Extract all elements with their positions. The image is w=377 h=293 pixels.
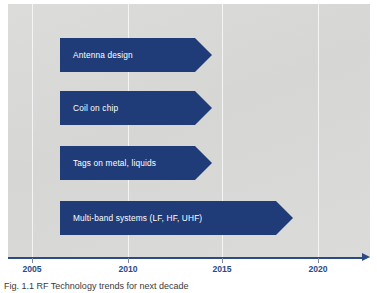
tick-label-2020: 2020 bbox=[308, 264, 327, 274]
tick-mark-2010 bbox=[128, 258, 129, 263]
tick-label-2015: 2015 bbox=[212, 264, 231, 274]
tick-label-2005: 2005 bbox=[22, 264, 41, 274]
tick-mark-2020 bbox=[318, 258, 319, 263]
tick-mark-2015 bbox=[222, 258, 223, 263]
tick-label-2010: 2010 bbox=[118, 264, 137, 274]
bar-coil-on-chip[interactable]: Coil on chip bbox=[60, 91, 212, 125]
bar-label: Multi-band systems (LF, HF, UHF) bbox=[73, 213, 202, 223]
bar-multi-band-systems[interactable]: Multi-band systems (LF, HF, UHF) bbox=[60, 201, 293, 235]
figure-container: Antenna design Coil on chip Tags on meta… bbox=[0, 0, 377, 293]
gridline-2005 bbox=[32, 4, 33, 258]
bar-antenna-design[interactable]: Antenna design bbox=[60, 38, 212, 72]
figure-caption: Fig. 1.1 RF Technology trends for next d… bbox=[4, 281, 188, 291]
x-axis-line bbox=[8, 257, 363, 259]
bar-tags-on-metal-liquids[interactable]: Tags on metal, liquids bbox=[60, 146, 212, 180]
bar-label: Tags on metal, liquids bbox=[73, 158, 156, 168]
bar-label: Coil on chip bbox=[73, 103, 118, 113]
bar-label: Antenna design bbox=[73, 50, 133, 60]
x-axis-arrow-icon bbox=[362, 253, 370, 261]
gridline-2020 bbox=[318, 4, 319, 258]
tick-mark-2005 bbox=[32, 258, 33, 263]
